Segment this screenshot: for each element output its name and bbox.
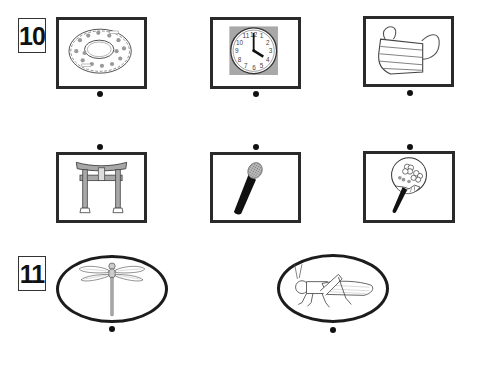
match-dot-mask[interactable] <box>407 90 413 96</box>
card-microphone[interactable]: microphone <box>210 152 301 223</box>
match-dot-clock[interactable] <box>253 91 259 97</box>
svg-text:1: 1 <box>260 32 264 39</box>
question-number-11: 11 <box>18 256 46 291</box>
svg-text:11: 11 <box>243 32 250 39</box>
svg-text:8: 8 <box>238 56 242 63</box>
dragonfly-icon <box>59 258 165 320</box>
microphone-icon <box>213 155 298 220</box>
card-dragonfly[interactable]: dragonfly <box>56 255 168 323</box>
match-dot-grasshopper[interactable] <box>330 327 336 333</box>
card-uchiwa[interactable]: uchiwa fan <box>363 151 455 223</box>
svg-text:6: 6 <box>252 64 256 71</box>
donut-icon <box>59 20 144 86</box>
grasshopper-icon <box>280 257 386 320</box>
uchiwa-fan-icon <box>366 154 452 220</box>
mask-icon <box>366 19 451 84</box>
svg-text:7: 7 <box>244 62 248 69</box>
card-mask[interactable]: face mask <box>363 16 454 87</box>
card-clock[interactable]: clock showing 4 o'clock 1212 345 678 910… <box>210 17 301 89</box>
match-dot-uchiwa[interactable] <box>407 144 413 150</box>
card-torii[interactable]: torii gate <box>56 152 147 223</box>
match-dot-torii[interactable] <box>97 144 103 150</box>
match-dot-donut[interactable] <box>97 91 103 97</box>
card-grasshopper[interactable]: grasshopper <box>277 254 389 323</box>
svg-text:9: 9 <box>235 47 239 54</box>
clock-icon: 1212 345 678 91011 <box>213 20 298 86</box>
svg-text:5: 5 <box>260 62 264 69</box>
svg-text:2: 2 <box>266 39 270 46</box>
svg-text:4: 4 <box>266 56 270 63</box>
torii-icon <box>59 155 144 220</box>
match-dot-microphone[interactable] <box>253 144 259 150</box>
question-number-10: 10 <box>18 18 46 53</box>
match-dot-dragonfly[interactable] <box>109 326 115 332</box>
svg-text:3: 3 <box>269 47 273 54</box>
svg-text:10: 10 <box>236 39 244 46</box>
card-donut[interactable]: donut <box>56 17 147 89</box>
